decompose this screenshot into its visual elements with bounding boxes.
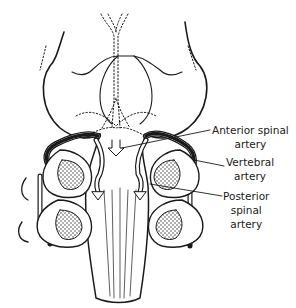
label-vertebral-artery: Vertebral artery — [226, 155, 274, 183]
label-line: Vertebral — [226, 155, 274, 169]
cerebellum-outline — [43, 22, 206, 138]
label-line: Anterior spinal — [212, 123, 289, 137]
label-line: Posterior — [223, 189, 269, 203]
label-anterior-spinal-artery: Anterior spinal artery — [212, 123, 289, 151]
label-line: artery — [223, 217, 269, 231]
label-posterior-spinal-artery: Posterior spinal artery — [223, 189, 269, 231]
label-line: artery — [226, 169, 274, 183]
leader-line-vertebral — [194, 160, 224, 166]
brainstem-artery-illustration — [0, 0, 296, 308]
label-line: artery — [212, 137, 289, 151]
midbrain-outline — [72, 56, 182, 75]
label-line: spinal — [223, 203, 269, 217]
